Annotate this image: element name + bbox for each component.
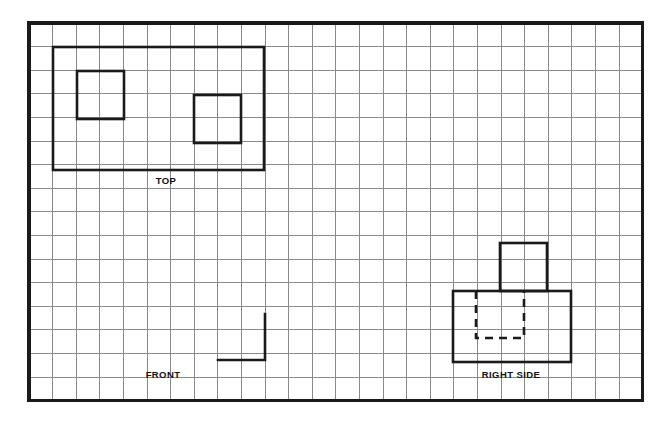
top-view-label: TOP	[156, 175, 177, 186]
orthographic-projection-worksheet: TOPFRONTRIGHT SIDE	[0, 0, 667, 429]
right-side-view-label: RIGHT SIDE	[482, 369, 540, 380]
front-view-label: FRONT	[146, 369, 181, 380]
drawing-canvas: TOPFRONTRIGHT SIDE	[0, 0, 667, 429]
